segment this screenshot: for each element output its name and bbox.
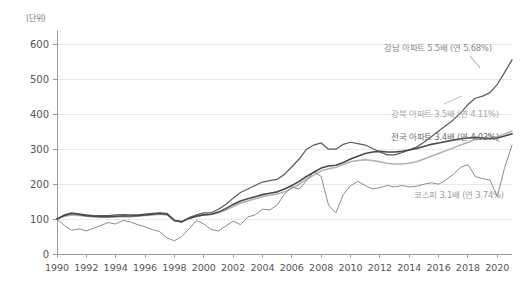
- leader-gangbuk: [444, 96, 462, 104]
- x-tick-label-2016: 2016: [427, 262, 451, 273]
- y-axis-tick-labels: 0100200300400500600: [30, 39, 49, 260]
- x-tick-label-1990: 1990: [45, 262, 69, 273]
- y-tick-label-500: 500: [30, 74, 49, 85]
- x-tick-label-2012: 2012: [368, 262, 392, 273]
- y-tick-label-300: 300: [30, 144, 49, 155]
- x-axis-tick-labels: 1990199219941996199820002002200420062008…: [45, 262, 510, 273]
- x-tick-label-2006: 2006: [280, 262, 304, 273]
- leader-gangnam: [470, 56, 480, 68]
- x-tick-label-1996: 1996: [133, 262, 157, 273]
- y-tick-label-200: 200: [30, 179, 49, 190]
- x-tick-label-2010: 2010: [338, 262, 362, 273]
- x-tick-label-2002: 2002: [221, 262, 245, 273]
- x-tick-label-2014: 2014: [397, 262, 421, 273]
- y-tick-label-0: 0: [43, 249, 49, 260]
- x-tick-label-1994: 1994: [104, 262, 128, 273]
- series-line-gangbuk: [57, 131, 512, 221]
- y-tick-label-100: 100: [30, 214, 49, 225]
- x-tick-label-1992: 1992: [74, 262, 98, 273]
- series-line-nationwide: [57, 134, 512, 222]
- series-lines: [57, 60, 512, 241]
- axis-lines: [53, 30, 512, 258]
- x-tick-label-2008: 2008: [309, 262, 333, 273]
- chart-figure: (단위) 0100200300400500600 199019921994199…: [0, 0, 527, 286]
- series-label-gangbuk: 강북 아파트 3.5배 (연 4.11%): [391, 107, 499, 119]
- series-label-kospi: 코스피 3.1배 (연 3.74%): [414, 188, 504, 200]
- x-tick-label-2004: 2004: [250, 262, 274, 273]
- x-tick-label-2018: 2018: [456, 262, 480, 273]
- series-label-nationwide: 전국 아파트 3.4배 (연 4.03%): [391, 130, 499, 142]
- y-tick-label-600: 600: [30, 39, 49, 50]
- x-tick-label-1998: 1998: [162, 262, 186, 273]
- y-tick-label-400: 400: [30, 109, 49, 120]
- x-tick-label-2000: 2000: [192, 262, 216, 273]
- series-label-gangnam: 강남 아파트 5.5배 (연 5.68%): [384, 41, 492, 53]
- x-tick-label-2020: 2020: [485, 262, 509, 273]
